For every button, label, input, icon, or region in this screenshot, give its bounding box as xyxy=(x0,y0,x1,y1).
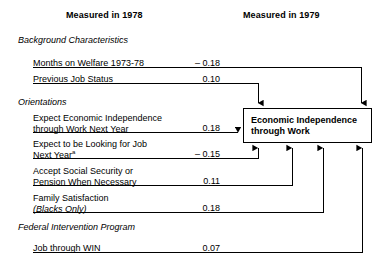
column-header-left: Measured in 1978 xyxy=(66,10,143,20)
section-heading-orientations: Orientations xyxy=(18,97,67,107)
path-months-on-welfare xyxy=(152,68,361,104)
predictor-line-2: through Work Next Year xyxy=(33,124,128,134)
predictor-line-1: Previous Job Status xyxy=(33,74,113,84)
predictor-label-expect-economic-independence: Expect Economic Independence through Wor… xyxy=(33,113,162,134)
path-diagram: Measured in 1978 Measured in 1979 Backgr… xyxy=(0,0,385,264)
section-heading-background: Background Characteristics xyxy=(18,35,128,45)
path-job-through-win xyxy=(95,148,362,253)
predictor-label-months-on-welfare: Months on Welfare 1973-78 xyxy=(33,58,144,69)
predictor-label-accept-social-security: Accept Social Security or Pension When N… xyxy=(33,166,137,187)
predictor-line-1: Months on Welfare 1973-78 xyxy=(33,58,144,68)
outcome-line-2: through Work xyxy=(251,126,310,136)
predictor-line-2: Next Year xyxy=(33,150,72,160)
predictor-label-expect-looking-for-job: Expect to be Looking for Job Next Yeara xyxy=(33,139,147,160)
outcome-line-1: Economic Independence xyxy=(251,115,357,125)
outcome-box: Economic Independence through Work xyxy=(243,108,372,143)
coefficient-expect-looking-for-job: – 0.15 xyxy=(180,149,220,159)
coefficient-previous-job-status: 0.10 xyxy=(180,74,220,84)
coefficient-family-satisfaction: 0.18 xyxy=(180,203,220,213)
coefficient-job-through-win: 0.07 xyxy=(180,243,220,253)
predictor-label-previous-job-status: Previous Job Status xyxy=(33,74,113,85)
section-heading-federal: Federal Intervention Program xyxy=(18,222,135,232)
predictor-label-job-through-win: Job through WIN xyxy=(33,243,101,254)
predictor-line-2: Pension When Necessary xyxy=(33,177,137,187)
predictor-line-1: Accept Social Security or xyxy=(33,166,133,176)
predictor-line-1: Expect Economic Independence xyxy=(33,113,162,123)
coefficient-expect-economic-independence: 0.18 xyxy=(180,123,220,133)
predictor-line-1: Family Satisfaction xyxy=(33,193,109,203)
predictor-label-family-satisfaction: Family Satisfaction (Blacks Only) xyxy=(33,193,109,214)
coefficient-months-on-welfare: – 0.18 xyxy=(180,58,220,68)
column-header-right: Measured in 1979 xyxy=(243,10,320,20)
coefficient-accept-social-security: 0.11 xyxy=(180,176,220,186)
predictor-line-2: (Blacks Only) xyxy=(33,204,87,214)
footnote-marker: a xyxy=(72,149,75,155)
path-previous-job-status xyxy=(120,84,258,104)
predictor-line-1: Job through WIN xyxy=(33,243,101,253)
predictor-line-1: Expect to be Looking for Job xyxy=(33,139,147,149)
outcome-box-label: Economic Independence through Work xyxy=(251,115,357,136)
